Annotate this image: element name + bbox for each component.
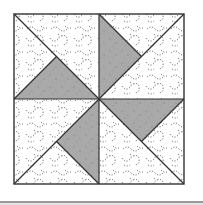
quilt-block [14,14,184,184]
seam-lines [14,14,184,184]
quilt-block-diagram [0,0,203,205]
bottom-rule-shadow [0,203,203,205]
